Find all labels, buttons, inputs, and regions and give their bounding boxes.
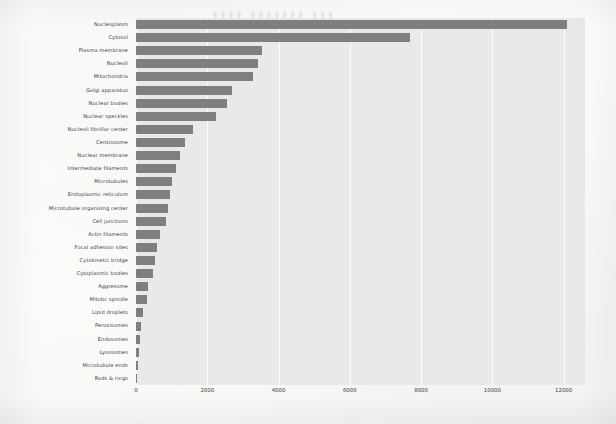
bar[interactable] xyxy=(136,190,170,199)
y-axis-label: Microtubule organizing center xyxy=(0,202,132,215)
bar[interactable] xyxy=(136,361,138,370)
bar-row[interactable] xyxy=(136,175,585,188)
bar-row[interactable] xyxy=(136,18,585,31)
bar-row[interactable] xyxy=(136,228,585,241)
bar-chart-figure: NucleoplasmCytosolPlasma membraneNucleol… xyxy=(0,0,616,424)
bar[interactable] xyxy=(136,256,155,265)
y-axis-label: Microtubules xyxy=(0,175,132,188)
y-axis-label: Endosomes xyxy=(0,333,132,346)
bar[interactable] xyxy=(136,46,262,55)
y-axis-label: Lipid droplets xyxy=(0,306,132,319)
bar-row[interactable] xyxy=(136,346,585,359)
y-axis-label: Mitochondria xyxy=(0,70,132,83)
x-axis-tick-label: 12000 xyxy=(555,387,572,393)
y-axis-label: Cytokinetic bridge xyxy=(0,254,132,267)
bar[interactable] xyxy=(136,217,166,226)
bar[interactable] xyxy=(136,335,140,344)
x-axis-tick-label: 6000 xyxy=(343,387,357,393)
y-axis-label: Microtubule ends xyxy=(0,359,132,372)
y-axis-label: Nuclear bodies xyxy=(0,97,132,110)
y-axis-label: Cell junctions xyxy=(0,215,132,228)
bar-row[interactable] xyxy=(136,280,585,293)
bar[interactable] xyxy=(136,125,193,134)
bar-row[interactable] xyxy=(136,359,585,372)
y-axis-label: Nuclear membrane xyxy=(0,149,132,162)
bar-row[interactable] xyxy=(136,97,585,110)
y-axis-category-labels: NucleoplasmCytosolPlasma membraneNucleol… xyxy=(0,18,132,385)
y-axis-label: Nucleoli fibrillar center xyxy=(0,123,132,136)
y-axis-label: Focal adhesion sites xyxy=(0,241,132,254)
bar-row[interactable] xyxy=(136,306,585,319)
bar[interactable] xyxy=(136,204,168,213)
y-axis-label: Nucleoli xyxy=(0,57,132,70)
bar[interactable] xyxy=(136,138,185,147)
bar-row[interactable] xyxy=(136,123,585,136)
y-axis-label: Cytoplasmic bodies xyxy=(0,267,132,280)
bar[interactable] xyxy=(136,308,143,317)
bar[interactable] xyxy=(136,151,180,160)
y-axis-label: Cytosol xyxy=(0,31,132,44)
bar-row[interactable] xyxy=(136,70,585,83)
bar-row[interactable] xyxy=(136,267,585,280)
y-axis-label: Peroxisomes xyxy=(0,319,132,332)
y-axis-label: Nuclear speckles xyxy=(0,110,132,123)
bar-row[interactable] xyxy=(136,319,585,332)
x-axis-tick-labels: 020004000600080001000012000 xyxy=(136,387,585,403)
bar[interactable] xyxy=(136,269,153,278)
y-axis-label: Intermediate filaments xyxy=(0,162,132,175)
bar-row[interactable] xyxy=(136,241,585,254)
bar-row[interactable] xyxy=(136,44,585,57)
bar[interactable] xyxy=(136,295,147,304)
bar[interactable] xyxy=(136,72,253,81)
bar-row[interactable] xyxy=(136,162,585,175)
y-axis-label: Nucleoplasm xyxy=(0,18,132,31)
bar[interactable] xyxy=(136,177,172,186)
bar[interactable] xyxy=(136,348,139,357)
bar[interactable] xyxy=(136,99,227,108)
bar[interactable] xyxy=(136,20,567,29)
bar-row[interactable] xyxy=(136,188,585,201)
bar-row[interactable] xyxy=(136,293,585,306)
bar[interactable] xyxy=(136,282,148,291)
y-axis-label: Lysosomes xyxy=(0,346,132,359)
y-axis-label: Aggresome xyxy=(0,280,132,293)
bar-series xyxy=(136,18,585,385)
bar-row[interactable] xyxy=(136,57,585,70)
bar[interactable] xyxy=(136,86,232,95)
bar[interactable] xyxy=(136,59,258,68)
bar[interactable] xyxy=(136,374,137,383)
bar-row[interactable] xyxy=(136,149,585,162)
bar[interactable] xyxy=(136,230,160,239)
bar-row[interactable] xyxy=(136,254,585,267)
bar-row[interactable] xyxy=(136,84,585,97)
y-axis-label: Centrosome xyxy=(0,136,132,149)
y-axis-label: Golgi apparatus xyxy=(0,84,132,97)
bar-row[interactable] xyxy=(136,215,585,228)
y-axis-label: Actin filaments xyxy=(0,228,132,241)
x-axis-tick-label: 8000 xyxy=(414,387,428,393)
bar[interactable] xyxy=(136,322,141,331)
x-axis-tick-label: 4000 xyxy=(272,387,286,393)
bar-row[interactable] xyxy=(136,333,585,346)
bar[interactable] xyxy=(136,33,410,42)
y-axis-label: Plasma membrane xyxy=(0,44,132,57)
x-axis-tick-label: 2000 xyxy=(200,387,214,393)
x-axis-tick-label: 10000 xyxy=(484,387,501,393)
bar-row[interactable] xyxy=(136,372,585,385)
bar-row[interactable] xyxy=(136,31,585,44)
bar[interactable] xyxy=(136,243,157,252)
bar[interactable] xyxy=(136,164,176,173)
y-axis-label: Mitotic spindle xyxy=(0,293,132,306)
bar-row[interactable] xyxy=(136,110,585,123)
y-axis-label: Endoplasmic reticulum xyxy=(0,188,132,201)
y-axis-label: Rods & rings xyxy=(0,372,132,385)
bar-row[interactable] xyxy=(136,136,585,149)
bar[interactable] xyxy=(136,112,216,121)
x-axis-tick-label: 0 xyxy=(134,387,137,393)
bar-row[interactable] xyxy=(136,202,585,215)
